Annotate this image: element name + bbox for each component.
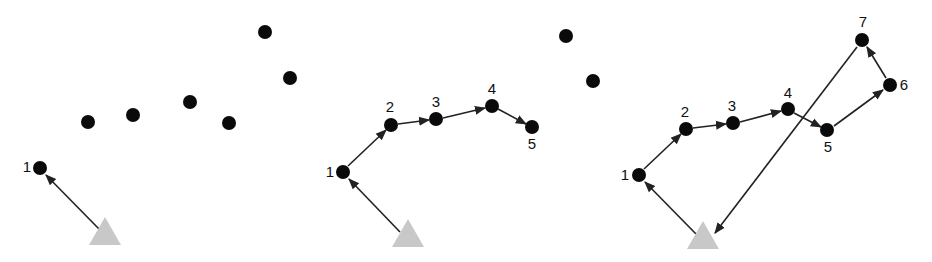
stop-point <box>632 168 646 182</box>
panel-1: 1 <box>23 25 297 245</box>
stop-label: 1 <box>326 163 334 180</box>
stop-point <box>855 33 869 47</box>
route-arrow <box>398 120 429 124</box>
stop-label: 5 <box>824 138 832 155</box>
stop-point <box>781 102 795 116</box>
depot-triangle-icon <box>392 219 424 247</box>
stop-point <box>183 95 197 109</box>
stop-point <box>559 29 573 43</box>
route-arrow <box>644 134 681 169</box>
stop-point <box>222 116 236 130</box>
panel-3: 1234567 <box>621 13 908 249</box>
stop-point <box>679 122 693 136</box>
depot-triangle-icon <box>89 217 121 245</box>
route-arrow <box>645 182 696 234</box>
stop-point <box>726 116 740 130</box>
route-arrow <box>46 175 100 230</box>
stop-label: 4 <box>784 84 792 101</box>
route-arrow <box>443 108 485 118</box>
route-arrow <box>867 47 886 78</box>
stop-point <box>258 25 272 39</box>
stop-label: 7 <box>859 13 867 30</box>
stop-label: 4 <box>488 80 496 97</box>
route-arrow <box>740 111 781 122</box>
stop-label: 2 <box>681 103 689 120</box>
depot-triangle-icon <box>687 221 719 249</box>
stop-point <box>820 123 834 137</box>
panel-2: 12345 <box>326 29 600 247</box>
route-diagram: 1123451234567 <box>0 0 932 262</box>
stop-point <box>883 78 897 92</box>
stop-point <box>485 99 499 113</box>
stop-point <box>586 74 600 88</box>
stop-point <box>429 112 443 126</box>
route-arrow <box>498 109 526 124</box>
stop-label: 5 <box>528 135 536 152</box>
stop-label: 3 <box>728 97 736 114</box>
stop-label: 3 <box>432 93 440 110</box>
route-arrow <box>715 47 857 233</box>
route-arrow <box>834 90 883 126</box>
stop-point <box>525 120 539 134</box>
stop-label: 1 <box>23 158 31 175</box>
stop-point <box>126 108 140 122</box>
route-arrow <box>348 130 386 166</box>
route-arrow <box>693 124 726 128</box>
stop-label: 6 <box>900 76 908 93</box>
route-arrow <box>349 179 400 232</box>
stop-point <box>283 71 297 85</box>
stop-point <box>384 118 398 132</box>
stop-point <box>81 115 95 129</box>
stop-point <box>33 161 47 175</box>
stop-label: 1 <box>621 166 629 183</box>
stop-label: 2 <box>386 98 394 115</box>
stop-point <box>336 165 350 179</box>
